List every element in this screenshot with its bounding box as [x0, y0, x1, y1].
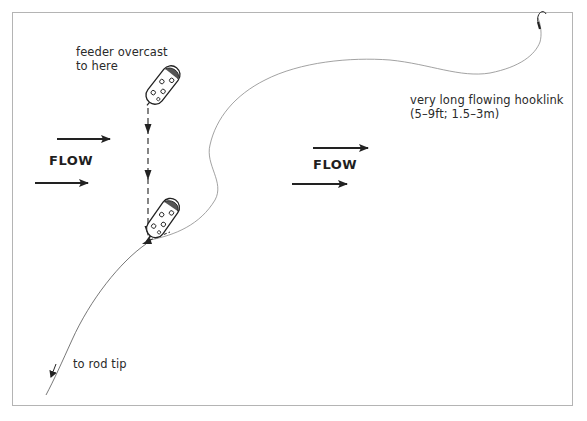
rod-tip-arrow-icon [51, 364, 56, 377]
rod-tip-label: to rod tip [73, 357, 127, 371]
main-line [46, 244, 146, 395]
feeder-overcast-label: feeder overcast to here [76, 45, 168, 73]
feeder-icon [139, 195, 183, 247]
hooklink-label: very long flowing hooklink (5–9ft; 1.5–3… [410, 93, 564, 121]
hooklink-label-line1: very long flowing hooklink [410, 93, 564, 107]
flow-label-left: FLOW [49, 153, 93, 168]
hooklink-label-line2: (5–9ft; 1.5–3m) [410, 107, 564, 121]
feeder-label-line1: feeder overcast [76, 45, 168, 59]
feeder-label-line2: to here [76, 59, 168, 73]
feeder-drop-arrow [145, 108, 152, 236]
hooklink-line [150, 18, 541, 240]
flow-label-right: FLOW [313, 157, 357, 172]
swivel-icon [142, 238, 152, 244]
